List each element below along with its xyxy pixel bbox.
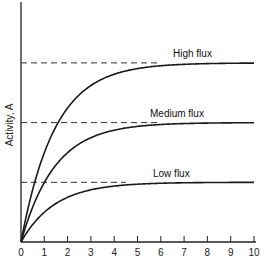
x-tick-label: 8 — [205, 247, 211, 258]
x-tick-label: 7 — [181, 247, 187, 258]
x-tick-label: 9 — [228, 247, 234, 258]
x-tick-label: 0 — [18, 247, 24, 258]
x-tick-label: 4 — [111, 247, 117, 258]
x-tick-label: 2 — [65, 247, 71, 258]
x-tick-label: 6 — [158, 247, 164, 258]
label-high-flux: High flux — [173, 48, 212, 59]
flux-activity-chart: 012345678910 Activity, A High flux Mediu… — [0, 0, 265, 277]
y-axis-title: Activity, A — [4, 103, 15, 146]
curve-low-flux — [21, 182, 254, 242]
label-medium-flux: Medium flux — [150, 108, 204, 119]
plateau-reference-lines — [21, 63, 161, 182]
series-curves — [21, 63, 254, 242]
label-low-flux: Low flux — [153, 168, 190, 179]
x-tick-label: 10 — [248, 247, 260, 258]
x-tick-label: 1 — [42, 247, 48, 258]
x-tick-label: 3 — [88, 247, 94, 258]
x-ticks: 012345678910 — [18, 236, 260, 258]
x-tick-label: 5 — [135, 247, 141, 258]
curve-high-flux — [21, 63, 254, 242]
